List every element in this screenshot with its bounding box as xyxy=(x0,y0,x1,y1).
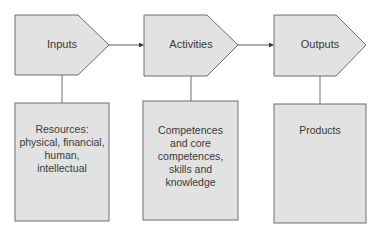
inputs-label: Inputs xyxy=(15,38,109,51)
outputs-label: Outputs xyxy=(274,38,366,51)
inputs-detail-line: physical, financial, xyxy=(15,136,109,149)
activities-detail-line: and core xyxy=(143,137,238,150)
inputs-detail-line: human, xyxy=(15,149,109,162)
activities-detail-line: skills and xyxy=(143,163,238,176)
outputs-detail-box xyxy=(274,104,366,223)
inputs-detail-line: intellectual xyxy=(15,162,109,175)
activities-label: Activities xyxy=(144,38,238,51)
inputs-detail-line: Resources: xyxy=(15,123,109,136)
activities-detail-line: Competences xyxy=(143,124,238,137)
activities-detail-line: knowledge xyxy=(143,176,238,189)
inputs-detail: Resources: physical, financial, human, i… xyxy=(15,123,109,175)
flow-diagram xyxy=(0,0,380,232)
activities-detail: Competences and core competences, skills… xyxy=(143,124,238,189)
outputs-detail: Products xyxy=(274,124,366,137)
activities-detail-line: competences, xyxy=(143,150,238,163)
outputs-detail-line: Products xyxy=(274,124,366,137)
